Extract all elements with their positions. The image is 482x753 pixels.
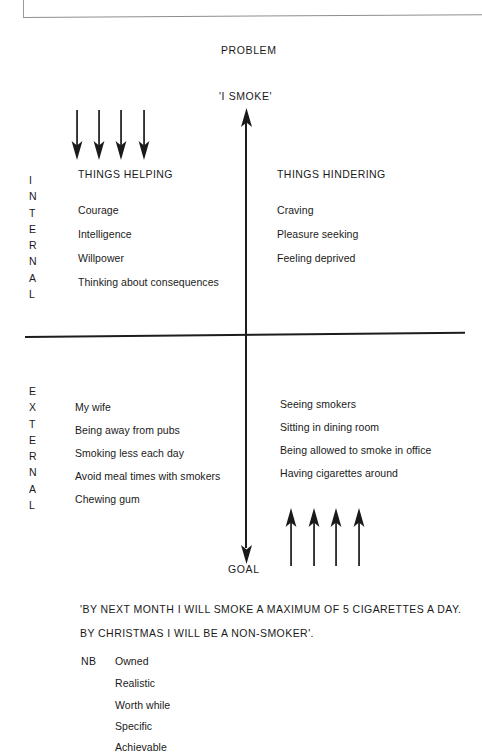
row-label-external-l4: R bbox=[29, 448, 37, 464]
row-label-external-l6: A bbox=[29, 481, 37, 497]
row-label-internal-l2: T bbox=[29, 205, 37, 221]
row-label-external-l7: L bbox=[29, 497, 37, 513]
nb-label: NB bbox=[81, 656, 97, 667]
item-external-helping-3: Avoid meal times with smokers bbox=[75, 471, 220, 482]
item-external-helping-2: Smoking less each day bbox=[75, 448, 184, 459]
axis-arrow-down-icon bbox=[238, 544, 255, 564]
item-internal-helping-0: Courage bbox=[78, 205, 119, 216]
row-label-internal-l4: R bbox=[29, 237, 37, 253]
item-internal-hindering-2: Feeling deprived bbox=[277, 253, 355, 264]
hindering-force-arrows-up-icon bbox=[283, 508, 368, 568]
goal-statement-line-1: 'BY NEXT MONTH I WILL SMOKE A MAXIMUM OF… bbox=[80, 604, 461, 615]
row-label-external-l1: X bbox=[29, 399, 37, 415]
row-label-internal-l5: N bbox=[29, 253, 37, 269]
item-external-hindering-1: Sitting in dining room bbox=[280, 422, 379, 433]
helping-force-arrows-down-icon bbox=[68, 110, 158, 162]
nb-criterion-0: Owned bbox=[115, 656, 149, 667]
heading-things-helping: THINGS HELPING bbox=[78, 169, 173, 180]
heading-things-hindering: THINGS HINDERING bbox=[277, 169, 386, 180]
item-internal-helping-2: Willpower bbox=[78, 253, 124, 264]
nb-criterion-3: Specific bbox=[115, 721, 152, 732]
row-label-external-l3: E bbox=[29, 432, 37, 448]
row-label-external-l5: N bbox=[29, 464, 37, 480]
item-external-hindering-0: Seeing smokers bbox=[280, 399, 356, 410]
item-external-helping-0: My wife bbox=[75, 402, 111, 413]
item-internal-hindering-0: Craving bbox=[277, 205, 314, 216]
scan-edge-horizontal bbox=[23, 14, 482, 18]
row-label-external-l0: E bbox=[29, 383, 37, 399]
axis-line-lower bbox=[245, 336, 247, 548]
nb-criterion-1: Realistic bbox=[115, 678, 155, 689]
nb-criterion-4: Achievable bbox=[115, 742, 167, 753]
axis-line-upper bbox=[245, 122, 247, 336]
row-label-external-l2: T bbox=[29, 416, 37, 432]
goal-label: GOAL bbox=[228, 564, 260, 575]
problem-title: PROBLEM bbox=[221, 45, 277, 56]
nb-criterion-2: Worth while bbox=[115, 700, 170, 711]
item-external-helping-4: Chewing gum bbox=[75, 494, 140, 505]
item-external-hindering-3: Having cigarettes around bbox=[280, 468, 398, 479]
row-label-internal: I N T E R N A L bbox=[29, 172, 37, 302]
goal-statement-line-2: BY CHRISTMAS I WILL BE A NON-SMOKER'. bbox=[80, 628, 314, 639]
row-label-internal-l6: A bbox=[29, 270, 37, 286]
row-label-internal-l7: L bbox=[29, 286, 37, 302]
item-external-helping-1: Being away from pubs bbox=[75, 425, 180, 436]
axis-arrow-up-icon bbox=[238, 108, 255, 128]
problem-statement: 'I SMOKE' bbox=[219, 91, 272, 102]
row-label-internal-l1: N bbox=[29, 188, 37, 204]
scan-edge-vertical bbox=[23, 0, 24, 18]
row-label-external: E X T E R N A L bbox=[29, 383, 37, 513]
item-external-hindering-2: Being allowed to smoke in office bbox=[280, 445, 431, 456]
item-internal-helping-1: Intelligence bbox=[78, 229, 132, 240]
row-label-internal-l3: E bbox=[29, 221, 37, 237]
row-label-internal-l0: I bbox=[29, 172, 37, 188]
item-internal-hindering-1: Pleasure seeking bbox=[277, 229, 358, 240]
item-internal-helping-3: Thinking about consequences bbox=[78, 277, 219, 288]
